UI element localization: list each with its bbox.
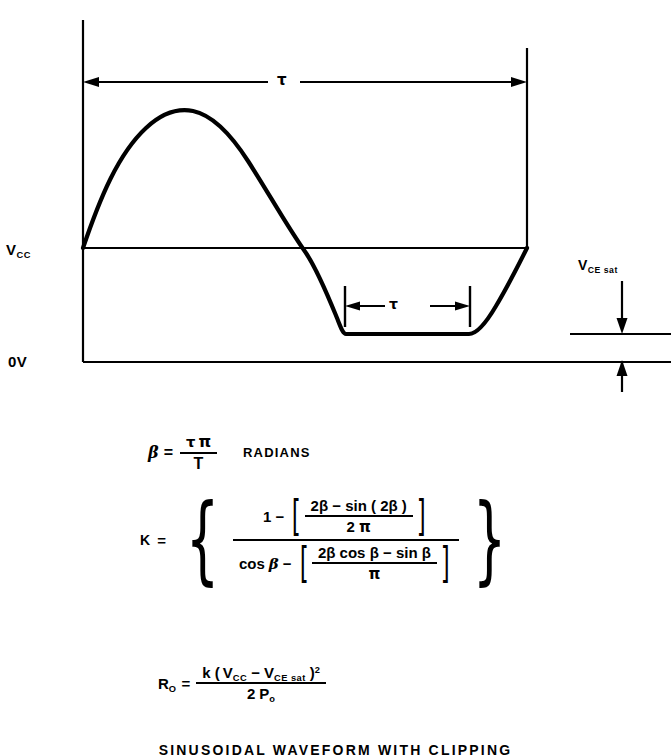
clip-width-dimension (345, 286, 470, 327)
k-num-minus: − (275, 508, 284, 525)
k-num-inner-denominator: 2π (305, 515, 413, 536)
vce-sat-arrowhead (617, 318, 628, 334)
k-symbol: K (140, 532, 151, 548)
beta-fraction: τπ T (180, 432, 217, 473)
beta-symbol: β (148, 443, 159, 462)
k-num-inner-fraction: 2β − sin ( 2β ) 2π (305, 497, 413, 536)
k-outer-numerator: 1 − [ 2β − sin ( 2β ) 2π ] (233, 497, 459, 539)
zero-volt-axis-label: 0V (8, 353, 27, 370)
k-brace-close: } (473, 510, 507, 570)
k-outer-fraction: 1 − [ 2β − sin ( 2β ) 2π ] (233, 497, 459, 583)
k-brace-open: { (186, 510, 220, 570)
period-tau-label: τ (277, 71, 287, 89)
clip-tau-label: τ (389, 296, 398, 312)
k-num-one: 1 (263, 508, 271, 525)
figure-caption: SINUSOIDAL WAVEFORM WITH CLIPPING (0, 742, 671, 755)
k-den-cos: cos (239, 555, 265, 572)
beta-equals: = (164, 444, 173, 462)
k-den-inner-numerator: 2β cos β − sin β (312, 544, 437, 562)
k-num-inner-numerator: 2β − sin ( 2β ) (305, 497, 413, 515)
k-den-bracket-open: [ (299, 551, 308, 576)
ro-denominator: 2Po (196, 682, 326, 702)
k-den-bracket-close: ] (441, 551, 450, 576)
k-den-inner-fraction: 2β cos β − sin β π (312, 544, 437, 583)
beta-units: RADIANS (243, 445, 311, 460)
ro-fraction: k(VCC−VCE sat)2 2Po (196, 664, 326, 702)
k-outer-denominator: cos β − [ 2β cos β − sin β π ] (233, 539, 459, 583)
beta-denominator: T (180, 452, 217, 473)
vcc-axis-label: VCC (6, 241, 31, 258)
k-formula: K = { 1 − [ 2β − sin ( 2β ) 2π (140, 497, 520, 583)
ro-numerator: k(VCC−VCE sat)2 (196, 664, 326, 682)
waveform-drawing (0, 0, 671, 755)
ro-equals: = (182, 675, 191, 692)
ro-formula: RO = k(VCC−VCE sat)2 2Po (158, 664, 326, 702)
k-den-minus: − (283, 555, 292, 572)
vce-sat-callout (570, 281, 671, 392)
k-num-bracket-close: ] (417, 504, 426, 529)
period-dimension (83, 77, 527, 87)
k-num-bracket-open: [ (292, 504, 301, 529)
vce-sat-label: VCE sat (578, 257, 618, 273)
k-den-inner-denominator: π (312, 562, 437, 583)
figure-canvas: VCC 0V VCE sat τ τ β = τπ T RADIANS K = … (0, 0, 671, 755)
clipped-sine-waveform (83, 110, 527, 334)
k-equals: = (157, 532, 166, 549)
beta-formula: β = τπ T RADIANS (148, 432, 311, 473)
k-den-beta: β (269, 555, 279, 573)
beta-numerator: τπ (180, 432, 217, 452)
ro-symbol: RO (158, 675, 177, 692)
